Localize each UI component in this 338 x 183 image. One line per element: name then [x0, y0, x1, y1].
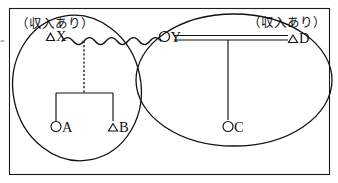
genogram-diagram: X Y D A B C （収入あり） （収入あり） [0, 0, 338, 183]
person-symbol-a-circle [51, 122, 61, 132]
person-label-y: Y [171, 29, 182, 45]
left-household-annotation: （収入あり） [16, 17, 94, 31]
person-symbol-c-circle [223, 122, 233, 132]
person-label-a: A [62, 119, 73, 135]
person-label-d: D [299, 30, 309, 46]
right-household-annotation: （収入あり） [248, 16, 326, 30]
person-label-b: B [119, 119, 129, 135]
person-symbol-d-triangle [289, 35, 298, 43]
person-label-c: C [234, 119, 244, 135]
genogram-canvas: X Y D A B C （収入あり） （収入あり） [0, 0, 338, 183]
union-line-x-y-wavy [62, 38, 161, 45]
person-symbol-x-triangle [47, 33, 55, 40]
person-symbol-b-triangle [109, 124, 118, 132]
